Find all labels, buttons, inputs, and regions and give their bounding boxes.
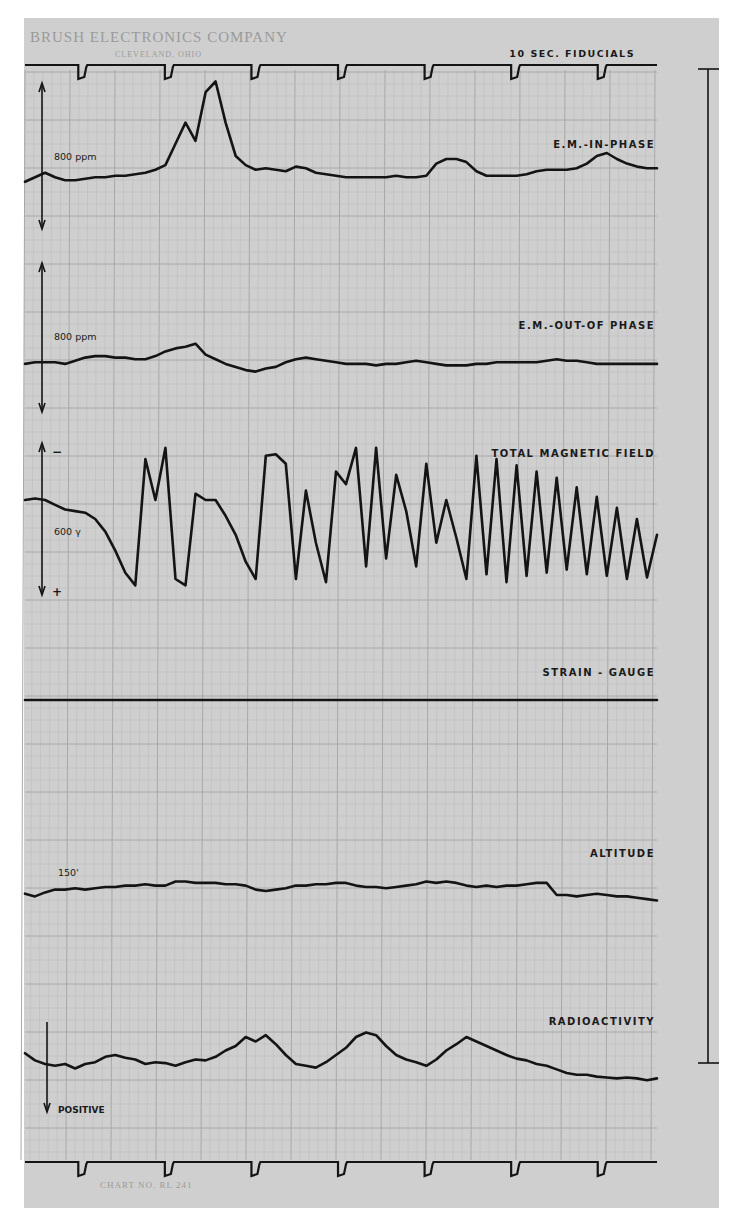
- grid-line-vertical: [372, 70, 376, 1160]
- grid-line-vertical: [318, 70, 322, 1160]
- fiducial-label: 10 SEC. FIDUCIALS: [509, 48, 635, 59]
- grid-line-vertical: [66, 70, 70, 1160]
- grid-line-vertical: [282, 70, 286, 1160]
- grid-line-vertical: [84, 70, 88, 1160]
- grid-line-vertical: [201, 70, 205, 1160]
- grid-line-vertical: [606, 70, 610, 1160]
- grid-line-vertical: [237, 70, 241, 1160]
- grid-line-vertical: [102, 70, 106, 1160]
- scale-label: 800 ppm: [54, 151, 96, 162]
- scale-bar: [698, 69, 719, 1063]
- grid-line-vertical: [597, 70, 601, 1160]
- grid-line-vertical: [210, 70, 214, 1160]
- grid-line-vertical: [516, 70, 520, 1160]
- grid-line-vertical: [129, 70, 133, 1160]
- grid-line-vertical: [390, 70, 394, 1160]
- grid-line-vertical: [381, 70, 385, 1160]
- grid-line-vertical: [93, 70, 97, 1160]
- channel-label: E.M.-IN-PHASE: [553, 139, 655, 150]
- grid-line-vertical: [552, 70, 556, 1160]
- scale-label: POSITIVE: [58, 1105, 105, 1115]
- grid-line-vertical: [309, 70, 313, 1160]
- grid-line-vertical: [543, 70, 547, 1160]
- channel-e-m-in-phase: E.M.-IN-PHASE800 ppm: [25, 82, 657, 230]
- channel-e-m-out-of-phase: E.M.-OUT-OF PHASE800 ppm: [25, 263, 657, 412]
- grid-line-vertical: [21, 70, 25, 1160]
- chart-grid: [21, 70, 657, 1160]
- grid-line-vertical: [300, 70, 304, 1160]
- grid-line-vertical: [57, 70, 61, 1160]
- grid-line-vertical: [147, 70, 151, 1160]
- grid-line-vertical: [417, 70, 421, 1160]
- chart-number: CHART NO. RL 241: [100, 1180, 192, 1190]
- grid-line-vertical: [633, 70, 637, 1160]
- grid-line-vertical: [471, 70, 475, 1160]
- scale-label: 150': [58, 867, 79, 878]
- grid-line-vertical: [642, 70, 646, 1160]
- channel-total-magnetic-field: TOTAL MAGNETIC FIELD600 γ−+: [25, 443, 657, 599]
- grid-line-vertical: [228, 70, 232, 1160]
- grid-line-vertical: [444, 70, 448, 1160]
- grid-line-vertical: [525, 70, 529, 1160]
- recorder-chart: BRUSH ELECTRONICS COMPANY CLEVELAND, OHI…: [0, 0, 752, 1219]
- grid-line-vertical: [174, 70, 178, 1160]
- grid-line-vertical: [462, 70, 466, 1160]
- grid-line-vertical: [120, 70, 124, 1160]
- grid-line-vertical: [111, 70, 115, 1160]
- channel-label: ALTITUDE: [590, 848, 655, 859]
- trace-line: [25, 82, 657, 182]
- scale-mark-negative: −: [52, 445, 62, 459]
- grid-line-vertical: [435, 70, 439, 1160]
- grid-line-vertical: [363, 70, 367, 1160]
- grid-line-vertical: [480, 70, 484, 1160]
- grid-line-vertical: [192, 70, 196, 1160]
- grid-line-vertical: [255, 70, 259, 1160]
- channel-radioactivity: RADIOACTIVITYPOSITIVE: [25, 1016, 657, 1115]
- grid-line-vertical: [354, 70, 358, 1160]
- grid-line-vertical: [30, 70, 34, 1160]
- grid-line-vertical: [624, 70, 628, 1160]
- grid-line-vertical: [588, 70, 592, 1160]
- grid-line-vertical: [534, 70, 538, 1160]
- grid-line-vertical: [219, 70, 223, 1160]
- grid-line-vertical: [507, 70, 511, 1160]
- grid-line-vertical: [273, 70, 277, 1160]
- scale-label: 600 γ: [54, 526, 81, 537]
- channel-label: TOTAL MAGNETIC FIELD: [492, 448, 655, 459]
- company-name: BRUSH ELECTRONICS COMPANY: [30, 29, 288, 45]
- grid-line-vertical: [345, 70, 349, 1160]
- grid-line-vertical: [156, 70, 160, 1160]
- scale-mark-positive: +: [52, 585, 62, 599]
- scale-label: 800 ppm: [54, 331, 96, 342]
- grid-line-vertical: [264, 70, 268, 1160]
- fiducial-trace-bottom: [25, 1162, 657, 1176]
- grid-line-vertical: [399, 70, 403, 1160]
- grid-line-vertical: [291, 70, 295, 1160]
- grid-line-vertical: [327, 70, 331, 1160]
- grid-line-vertical: [408, 70, 412, 1160]
- grid-line-vertical: [570, 70, 574, 1160]
- grid-line-vertical: [498, 70, 502, 1160]
- trace-line: [25, 1033, 657, 1081]
- channel-label: E.M.-OUT-OF PHASE: [519, 320, 655, 331]
- grid-line-vertical: [183, 70, 187, 1160]
- grid-line-vertical: [615, 70, 619, 1160]
- company-city: CLEVELAND, OHIO: [115, 50, 202, 59]
- grid-line-vertical: [138, 70, 142, 1160]
- grid-line-vertical: [75, 70, 79, 1160]
- grid-line-vertical: [336, 70, 340, 1160]
- grid-line-vertical: [426, 70, 430, 1160]
- grid-line-vertical: [48, 70, 52, 1160]
- channel-label: STRAIN - GAUGE: [543, 667, 655, 678]
- trace-line: [25, 448, 657, 586]
- grid-line-vertical: [489, 70, 493, 1160]
- grid-line-vertical: [39, 70, 43, 1160]
- grid-line-vertical: [561, 70, 565, 1160]
- grid-line-vertical: [453, 70, 457, 1160]
- grid-line-vertical: [246, 70, 250, 1160]
- grid-line-vertical: [579, 70, 583, 1160]
- grid-line-vertical: [651, 70, 655, 1160]
- grid-line-vertical: [165, 70, 169, 1160]
- channel-label: RADIOACTIVITY: [549, 1016, 655, 1027]
